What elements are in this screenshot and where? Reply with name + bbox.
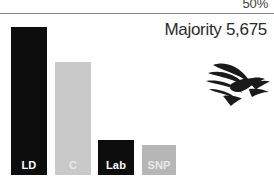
- bar-lab: Lab: [98, 140, 134, 175]
- bar-c-label: C: [55, 159, 91, 171]
- bar-ld-label: LD: [11, 159, 47, 171]
- bar-snp-label: SNP: [142, 159, 176, 171]
- bar-snp: SNP: [142, 145, 176, 175]
- liberal-democrats-bird-logo-icon: [201, 58, 271, 110]
- bar-ld: LD: [11, 27, 47, 175]
- bar-ld-body: [11, 27, 47, 175]
- vote-share-bar-chart: 50% Majority 5,675 LD C Lab SNP: [0, 0, 274, 187]
- bar-lab-label: Lab: [98, 159, 134, 171]
- bar-c: C: [55, 62, 91, 175]
